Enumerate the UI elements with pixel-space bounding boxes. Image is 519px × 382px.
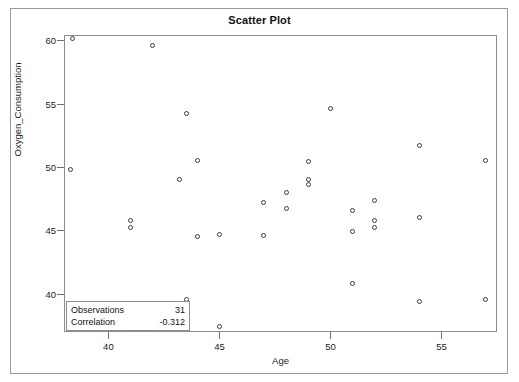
correlation-value: -0.312 bbox=[143, 316, 185, 328]
x-axis-tick-label: 40 bbox=[88, 341, 128, 352]
data-point bbox=[284, 206, 289, 211]
data-point bbox=[372, 198, 377, 203]
data-point bbox=[483, 297, 488, 302]
correlation-label: Correlation bbox=[71, 316, 143, 328]
data-point bbox=[306, 182, 311, 187]
statistics-legend-box: Observations 31 Correlation -0.312 bbox=[66, 301, 190, 331]
data-point bbox=[284, 190, 289, 195]
y-axis-tick bbox=[57, 167, 64, 168]
data-point bbox=[350, 281, 355, 286]
data-point bbox=[417, 215, 422, 220]
x-axis-tick bbox=[108, 332, 109, 339]
data-point bbox=[372, 218, 377, 223]
data-point bbox=[372, 225, 377, 230]
x-axis-tick bbox=[219, 332, 220, 339]
x-axis-title: Age bbox=[64, 355, 497, 366]
data-point bbox=[184, 111, 189, 116]
data-point bbox=[350, 229, 355, 234]
scatter-plot-window: Scatter Plot 4045505560 Oxygen_Consumpti… bbox=[0, 0, 519, 382]
x-axis-tick bbox=[330, 332, 331, 339]
plot-data-area bbox=[64, 35, 497, 332]
data-point bbox=[128, 218, 133, 223]
observations-row: Observations 31 bbox=[71, 304, 185, 316]
correlation-row: Correlation -0.312 bbox=[71, 316, 185, 328]
data-point bbox=[350, 208, 355, 213]
y-axis-tick-label: 45 bbox=[16, 225, 56, 236]
y-axis-tick-label: 40 bbox=[16, 288, 56, 299]
data-point bbox=[217, 324, 222, 329]
data-point bbox=[150, 43, 155, 48]
data-point bbox=[417, 143, 422, 148]
x-axis-tick-label: 55 bbox=[421, 341, 461, 352]
data-point bbox=[177, 177, 182, 182]
y-axis-tick bbox=[57, 230, 64, 231]
y-axis-tick bbox=[57, 40, 64, 41]
y-axis-tick bbox=[57, 104, 64, 105]
x-axis-tick-label: 50 bbox=[310, 341, 350, 352]
data-point bbox=[217, 232, 222, 237]
y-axis-tick bbox=[57, 294, 64, 295]
data-point bbox=[261, 233, 266, 238]
x-axis-tick-label: 45 bbox=[199, 341, 239, 352]
data-point bbox=[328, 106, 333, 111]
data-point bbox=[417, 299, 422, 304]
data-point bbox=[195, 158, 200, 163]
data-point bbox=[70, 36, 75, 41]
observations-label: Observations bbox=[71, 304, 143, 316]
data-point bbox=[261, 200, 266, 205]
data-point bbox=[195, 234, 200, 239]
data-point bbox=[306, 159, 311, 164]
x-axis-tick bbox=[441, 332, 442, 339]
data-point bbox=[68, 167, 73, 172]
y-axis-title: Oxygen_Consumption bbox=[12, 30, 23, 190]
chart-title: Scatter Plot bbox=[0, 14, 519, 26]
data-point bbox=[128, 225, 133, 230]
data-point bbox=[483, 158, 488, 163]
observations-value: 31 bbox=[143, 304, 185, 316]
